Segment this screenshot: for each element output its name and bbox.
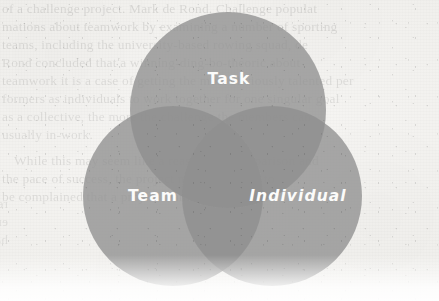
scanned-page: of a challenge project. Mark de Rond. Ch… [0, 0, 439, 301]
venn-diagram-svg: TaskTeamIndividual [0, 0, 439, 301]
venn-label-task: Task [208, 70, 251, 88]
venn-diagram: TaskTeamIndividual [0, 0, 439, 301]
venn-label-individual: Individual [249, 187, 347, 205]
venn-label-team: Team [128, 187, 178, 205]
